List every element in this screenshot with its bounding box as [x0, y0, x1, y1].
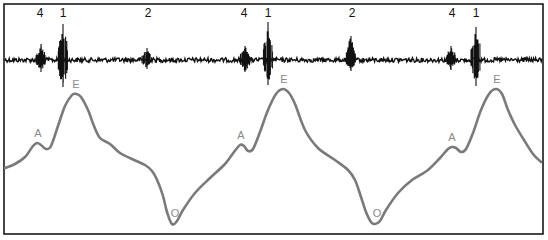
- spike-burst-4: [36, 44, 45, 72]
- spike-burst-2: [346, 36, 355, 71]
- diagram-figure: 41241241 AEOAEOAE: [0, 0, 548, 240]
- spike-burst-1: [264, 22, 273, 85]
- wave-label-A: A: [34, 127, 42, 139]
- spike-burst-4: [446, 46, 455, 70]
- wave-label-E: E: [72, 78, 79, 90]
- spike-burst-1: [58, 24, 67, 87]
- burst-label-4: 4: [241, 6, 248, 20]
- burst-label-4: 4: [37, 6, 44, 20]
- burst-label-2: 2: [349, 6, 356, 20]
- burst-label-4: 4: [449, 6, 456, 20]
- spike-burst-2: [142, 48, 152, 69]
- burst-label-1: 1: [473, 6, 480, 20]
- wave-label-E: E: [280, 73, 287, 85]
- wave-label-O: O: [171, 207, 180, 219]
- burst-label-1: 1: [60, 6, 67, 20]
- burst-label-1: 1: [265, 6, 272, 20]
- burst-labels: 41241241: [37, 6, 480, 20]
- wave-label-A: A: [237, 129, 245, 141]
- figure-frame: [4, 4, 543, 234]
- burst-label-2: 2: [145, 6, 152, 20]
- wave-labels: AEOAEOAE: [34, 73, 500, 219]
- spike-burst-1: [471, 27, 480, 86]
- wave-label-E: E: [493, 73, 500, 85]
- trace-baseline: [5, 58, 542, 62]
- spike-burst-4: [240, 46, 249, 72]
- wave-label-O: O: [373, 207, 382, 219]
- neural-activity-trace: [5, 22, 542, 87]
- waveform-curve: [5, 89, 541, 225]
- wave-label-A: A: [448, 131, 456, 143]
